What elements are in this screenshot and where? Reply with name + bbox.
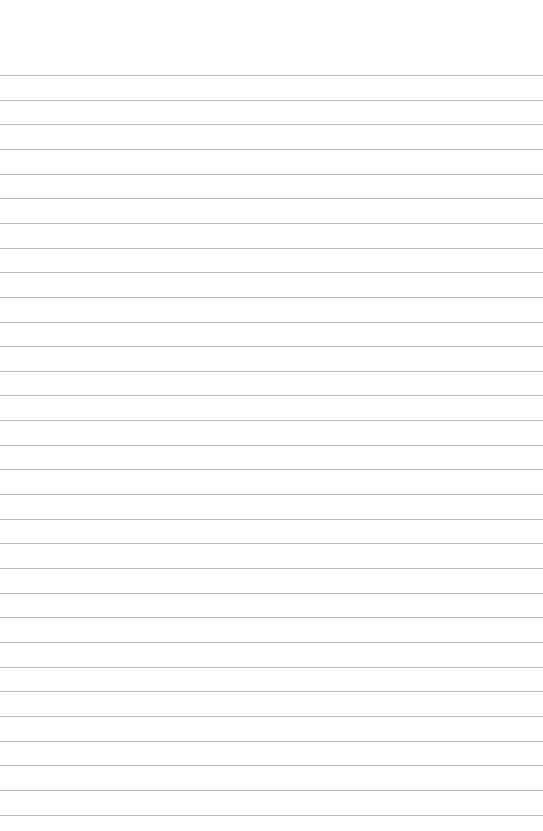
ruled-line: [0, 815, 543, 816]
lined-paper: [0, 0, 543, 831]
ruled-line: [0, 174, 543, 175]
ruled-line: [0, 322, 543, 323]
ruled-line: [0, 716, 543, 717]
ruled-line: [0, 568, 543, 569]
ruled-line: [0, 667, 543, 668]
ruled-line: [0, 346, 543, 347]
ruled-line: [0, 223, 543, 224]
ruled-line: [0, 765, 543, 766]
ruled-line: [0, 494, 543, 495]
ruled-line: [0, 691, 543, 692]
ruled-line: [0, 124, 543, 125]
ruled-line: [0, 445, 543, 446]
ruled-line: [0, 469, 543, 470]
ruled-line: [0, 420, 543, 421]
ruled-line: [0, 371, 543, 372]
ruled-line: [0, 198, 543, 199]
ruled-line: [0, 248, 543, 249]
ruled-line: [0, 272, 543, 273]
ruled-line: [0, 75, 543, 76]
ruled-line: [0, 741, 543, 742]
ruled-line: [0, 100, 543, 101]
ruled-line: [0, 395, 543, 396]
ruled-line: [0, 543, 543, 544]
ruled-line: [0, 149, 543, 150]
ruled-line: [0, 593, 543, 594]
ruled-line: [0, 519, 543, 520]
ruled-line: [0, 617, 543, 618]
ruled-line: [0, 790, 543, 791]
ruled-line: [0, 297, 543, 298]
ruled-line: [0, 642, 543, 643]
